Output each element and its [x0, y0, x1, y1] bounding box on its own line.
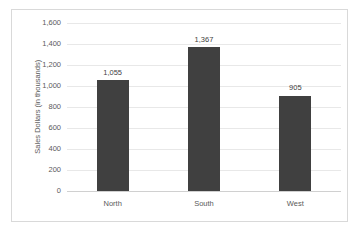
- bar[interactable]: [97, 80, 129, 191]
- plot-area: 02004006008001,0001,2001,4001,600 1,055N…: [67, 23, 341, 191]
- y-axis-tick-label: 1,600: [42, 19, 61, 27]
- chart-frame: Sales Dollars (in thousands) 02004006008…: [11, 9, 348, 222]
- y-axis-tick-label: 400: [48, 145, 61, 153]
- x-axis-category-label: South: [194, 200, 214, 208]
- bar-value-label: 1,055: [103, 69, 122, 77]
- axis-baseline: 0: [67, 191, 341, 192]
- bar-group: 1,367South: [188, 23, 220, 191]
- y-axis-tick-label: 600: [48, 124, 61, 132]
- bar-value-label: 1,367: [195, 36, 214, 44]
- y-axis-title-text: Sales Dollars (in thousands): [34, 60, 42, 154]
- y-axis-tick-label: 200: [48, 166, 61, 174]
- x-axis-category-label: West: [287, 200, 304, 208]
- bar-value-label: 905: [289, 84, 302, 92]
- y-axis-tick-label: 800: [48, 103, 61, 111]
- bar-group: 905West: [279, 23, 311, 191]
- y-axis-tick-label: 1,400: [42, 40, 61, 48]
- bar-group: 1,055North: [97, 23, 129, 191]
- x-axis-category-label: North: [103, 200, 121, 208]
- y-axis-tick-label: 1,200: [42, 61, 61, 69]
- y-axis-tick-label: 1,000: [42, 82, 61, 90]
- bar[interactable]: [188, 47, 220, 191]
- bar[interactable]: [279, 96, 311, 191]
- bar-series: 1,055North1,367South905West: [67, 23, 341, 191]
- y-axis-tick-label: 0: [57, 187, 61, 195]
